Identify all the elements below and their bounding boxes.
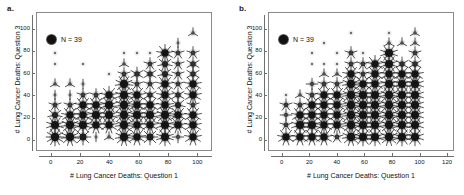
y-axis-tick bbox=[32, 73, 35, 74]
panel-a: a. # Lung Cancer Deaths: Question 3 0204… bbox=[0, 0, 232, 195]
x-axis-tick-label: 80 bbox=[380, 159, 404, 165]
plot-frame bbox=[36, 12, 212, 151]
x-axis-tick-label: 60 bbox=[352, 159, 376, 165]
x-axis-tick bbox=[392, 153, 393, 156]
panel-b: b. # Lung Cancer Deaths: Question 3 0204… bbox=[232, 0, 464, 195]
y-axis-tick bbox=[264, 51, 267, 52]
y-axis-line bbox=[32, 15, 33, 151]
x-axis-tick-label: 40 bbox=[97, 159, 121, 165]
x-axis-tick bbox=[139, 153, 140, 156]
x-axis-tick bbox=[337, 153, 338, 156]
y-axis-tick bbox=[264, 118, 267, 119]
y-axis-tick-label: 20 bbox=[242, 114, 262, 120]
y-axis-tick-label: 60 bbox=[242, 70, 262, 76]
x-axis-tick bbox=[168, 153, 169, 156]
y-axis-tick bbox=[264, 95, 267, 96]
panel-b-plot-area: 020406080100120020406080100N = 39 bbox=[232, 0, 464, 195]
y-axis-tick-label: 0 bbox=[242, 136, 262, 142]
y-axis-tick bbox=[264, 29, 267, 30]
panel-a-plot-area: 020406080100020406080100N = 39 bbox=[0, 0, 232, 195]
panel-a-x-axis-title: # Lung Cancer Deaths: Question 1 bbox=[36, 172, 212, 179]
x-axis-tick bbox=[364, 153, 365, 156]
y-axis-tick bbox=[32, 51, 35, 52]
x-axis-tick bbox=[51, 153, 52, 156]
y-axis-tick bbox=[264, 140, 267, 141]
x-axis-tick bbox=[447, 153, 448, 156]
y-axis-tick bbox=[264, 73, 267, 74]
y-axis-tick-label: 0 bbox=[10, 136, 30, 142]
y-axis-tick-label: 40 bbox=[242, 92, 262, 98]
y-axis-tick-label: 40 bbox=[10, 92, 30, 98]
legend-marker-icon bbox=[46, 34, 57, 45]
x-axis-tick-label: 60 bbox=[127, 159, 151, 165]
y-axis-line bbox=[264, 15, 265, 151]
y-axis-tick-label: 80 bbox=[10, 47, 30, 53]
y-axis-tick-label: 100 bbox=[242, 25, 262, 31]
x-axis-tick-label: 120 bbox=[435, 159, 459, 165]
plot-frame bbox=[268, 12, 454, 151]
x-axis-tick bbox=[282, 153, 283, 156]
x-axis-tick-label: 80 bbox=[156, 159, 180, 165]
x-axis-tick bbox=[80, 153, 81, 156]
legend-sample-size-label: N = 39 bbox=[293, 36, 314, 43]
legend-sample-size-label: N = 39 bbox=[61, 36, 82, 43]
x-axis-tick bbox=[197, 153, 198, 156]
x-axis-tick-label: 0 bbox=[270, 159, 294, 165]
x-axis-line bbox=[39, 156, 212, 157]
x-axis-tick-label: 100 bbox=[408, 159, 432, 165]
x-axis-tick-label: 40 bbox=[325, 159, 349, 165]
x-axis-tick bbox=[309, 153, 310, 156]
y-axis-tick-label: 80 bbox=[242, 47, 262, 53]
x-axis-tick-label: 100 bbox=[185, 159, 209, 165]
legend-marker-icon bbox=[278, 34, 289, 45]
x-axis-tick-label: 20 bbox=[297, 159, 321, 165]
sunflower-scatter-figure: a. # Lung Cancer Deaths: Question 3 0204… bbox=[0, 0, 464, 195]
panel-b-x-axis-title: # Lung Cancer Deaths: Question 1 bbox=[268, 172, 454, 179]
x-axis-tick-label: 0 bbox=[39, 159, 63, 165]
x-axis-tick bbox=[420, 153, 421, 156]
y-axis-tick bbox=[32, 118, 35, 119]
y-axis-tick bbox=[32, 140, 35, 141]
x-axis-tick bbox=[109, 153, 110, 156]
x-axis-line bbox=[271, 156, 454, 157]
y-axis-tick-label: 100 bbox=[10, 25, 30, 31]
y-axis-tick bbox=[32, 29, 35, 30]
y-axis-tick-label: 20 bbox=[10, 114, 30, 120]
y-axis-tick-label: 60 bbox=[10, 70, 30, 76]
y-axis-tick bbox=[32, 95, 35, 96]
x-axis-tick-label: 20 bbox=[68, 159, 92, 165]
